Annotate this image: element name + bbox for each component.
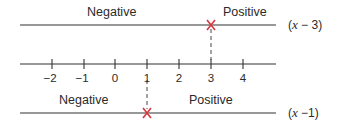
bottom-negative-label: Negative bbox=[59, 93, 108, 107]
top-negative-label: Negative bbox=[87, 5, 136, 19]
tick-label: 3 bbox=[208, 72, 214, 84]
tick-label: −1 bbox=[75, 72, 88, 84]
tick-label: 0 bbox=[112, 72, 118, 84]
tick-label: 1 bbox=[144, 72, 150, 84]
top-expression-rest: − 3) bbox=[298, 18, 322, 32]
tick-label: 2 bbox=[176, 72, 182, 84]
tick-label: 4 bbox=[240, 72, 246, 84]
top-positive-label: Positive bbox=[223, 5, 267, 19]
bottom-expression: (x −1) bbox=[288, 105, 319, 121]
top-expression: (x − 3) bbox=[288, 17, 322, 33]
bottom-expression-rest: −1) bbox=[298, 106, 319, 120]
bottom-positive-label: Positive bbox=[189, 93, 233, 107]
tick-label: −2 bbox=[43, 72, 56, 84]
